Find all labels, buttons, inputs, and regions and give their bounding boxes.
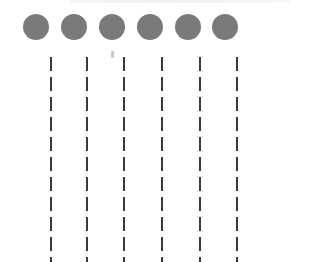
node-circle <box>212 14 238 40</box>
node-circle <box>61 14 87 40</box>
dashed-lifeline <box>123 57 125 262</box>
dashed-lifeline <box>199 57 201 262</box>
node-circle <box>137 14 163 40</box>
dashed-lifeline <box>236 57 238 262</box>
dashed-lifeline <box>86 57 88 262</box>
artifact-mark <box>111 51 114 58</box>
node-circle <box>23 14 49 40</box>
dashed-lifeline <box>50 57 52 262</box>
cropped-top-text-remnant <box>70 0 290 3</box>
node-circle <box>175 14 201 40</box>
dashed-lifeline <box>161 57 163 262</box>
node-circle <box>99 14 125 40</box>
